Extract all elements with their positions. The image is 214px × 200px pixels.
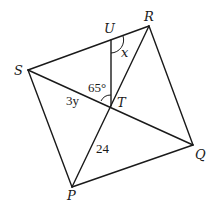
- label-q: Q: [195, 147, 206, 162]
- angle-65-arc: [101, 95, 111, 101]
- length-pt-label: 24: [96, 141, 110, 156]
- angle-65-label: 65°: [88, 80, 106, 95]
- side-qp: [72, 145, 193, 187]
- label-r: R: [143, 9, 154, 24]
- label-u: U: [104, 21, 116, 36]
- label-s: S: [14, 63, 23, 78]
- length-st-label: 3y: [66, 93, 80, 108]
- label-p: P: [66, 188, 76, 200]
- label-t: T: [117, 95, 127, 110]
- angle-x-label: x: [121, 45, 129, 60]
- side-rq: [149, 26, 193, 145]
- quadrilateral-diagram: R U S T Q P x 65° 3y 24: [0, 0, 214, 200]
